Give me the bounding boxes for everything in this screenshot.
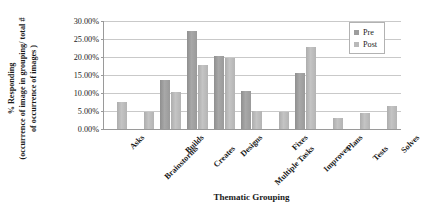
legend-swatch-icon (354, 42, 359, 47)
bar-post[interactable] (198, 65, 208, 129)
y-axis-tick-label: 30.00% (46, 17, 99, 26)
bar-post[interactable] (387, 106, 397, 129)
bar-post[interactable] (333, 118, 343, 129)
y-axis-tick-label: 25.00% (46, 35, 99, 44)
x-axis-tick-label: Creates (211, 144, 236, 169)
bar-group (293, 21, 320, 129)
y-axis-title-line-2: (occurrence of image in grouping/ total … (17, 17, 28, 159)
legend-swatch-icon (354, 30, 359, 35)
bar-group (212, 21, 239, 129)
legend: PrePost (349, 22, 385, 54)
bar-post[interactable] (279, 112, 289, 129)
y-axis-tick-label: 20.00% (46, 53, 99, 62)
y-axis-tick-label: 5.00% (46, 107, 99, 116)
bar-post[interactable] (252, 111, 262, 129)
legend-label: Pre (363, 28, 374, 37)
bar-group (131, 21, 158, 129)
x-axis-tick-label: Asks (127, 133, 145, 151)
x-axis-tick-label: Solves (399, 133, 421, 155)
y-axis-tick-mark (101, 129, 104, 130)
bar-group (320, 21, 347, 129)
bar-post[interactable] (360, 113, 370, 129)
bar-post[interactable] (144, 112, 154, 129)
bar-pre[interactable] (187, 31, 197, 129)
y-axis-tick-labels: 30.00%25.00%20.00%15.00%10.00%5.00%0.00% (46, 14, 99, 136)
x-axis-tick-label: Designs (238, 133, 263, 158)
bar-pre[interactable] (295, 73, 305, 129)
y-axis-title-line-3: of occurrence of images ) (28, 17, 39, 159)
bar-post[interactable] (117, 102, 127, 129)
bar-chart: % Responding (occurrence of image in gro… (0, 0, 425, 214)
y-axis-title: % Responding (occurrence of image in gro… (0, 0, 44, 176)
bar-pre[interactable] (160, 80, 170, 129)
bar-post[interactable] (306, 47, 316, 129)
x-axis-tick-label: Tests (371, 144, 390, 163)
y-axis-tick-label: 10.00% (46, 89, 99, 98)
bar-pre[interactable] (214, 56, 224, 129)
bar-group (266, 21, 293, 129)
y-axis-tick-label: 0.00% (46, 125, 99, 134)
legend-item[interactable]: Post (354, 38, 377, 50)
bar-group (104, 21, 131, 129)
y-axis-title-line-1: % Responding (6, 17, 17, 159)
bar-pre[interactable] (241, 91, 251, 129)
y-axis-tick-label: 15.00% (46, 71, 99, 80)
x-axis-tick-labels: AsksBrainstormsBuildsCreatesDesignsMulti… (103, 131, 403, 191)
bar-group (239, 21, 266, 129)
bar-post[interactable] (171, 92, 181, 129)
bar-group (185, 21, 212, 129)
x-axis-tick-label: Plans (344, 133, 364, 153)
x-axis-title: Thematic Grouping (103, 192, 400, 202)
bar-post[interactable] (225, 58, 235, 129)
legend-label: Post (363, 40, 377, 49)
bar-group (158, 21, 185, 129)
legend-item[interactable]: Pre (354, 26, 377, 38)
